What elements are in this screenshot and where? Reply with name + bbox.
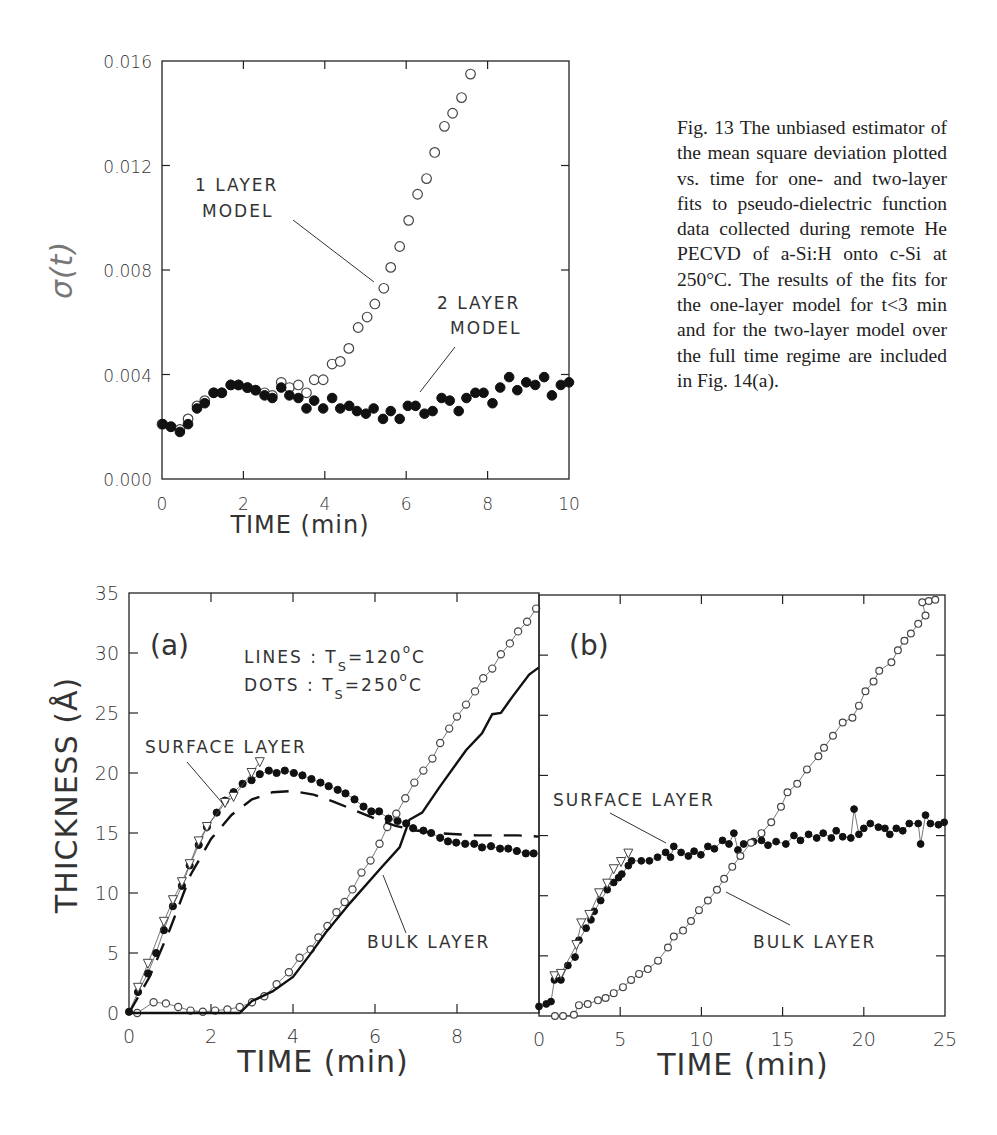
data-point-open <box>552 1013 559 1020</box>
data-point-filled <box>906 820 913 827</box>
data-point-filled <box>445 396 455 406</box>
data-point-open <box>704 897 711 904</box>
data-point-open <box>888 659 895 666</box>
series-0-connector <box>539 809 944 1006</box>
data-point-open <box>395 242 405 252</box>
data-point-filled <box>334 786 341 793</box>
data-point-filled <box>386 406 396 416</box>
data-point-open <box>758 830 765 837</box>
data-point-filled <box>256 771 263 778</box>
data-point-open <box>514 628 521 635</box>
data-point-open <box>376 840 383 847</box>
data-point-filled <box>342 790 349 797</box>
y-tick-label: 15 <box>95 822 119 844</box>
fig14a-leader-surface <box>187 762 224 805</box>
data-point-filled <box>462 393 472 403</box>
data-point-filled <box>791 832 798 839</box>
data-point-open <box>150 999 157 1006</box>
data-point-open <box>737 853 744 860</box>
data-point-filled <box>325 783 332 790</box>
data-point-filled <box>290 769 297 776</box>
data-point-open <box>446 725 453 732</box>
data-point-filled <box>547 391 557 401</box>
data-point-open <box>895 647 902 654</box>
data-point-filled <box>234 380 244 390</box>
data-point-open <box>480 675 487 682</box>
data-point-filled <box>478 844 485 851</box>
legend-dots-text: DOTS : TS=250oC <box>244 670 423 702</box>
fig13-annot-1layer-line1: 1 LAYER <box>195 175 278 195</box>
fig14b-panel-label: (b) <box>569 629 609 662</box>
data-point-open <box>680 927 687 934</box>
data-point-filled <box>740 841 747 848</box>
y-tick-label: 20 <box>95 762 119 784</box>
y-tick-label: 0.012 <box>103 157 152 177</box>
legend-lines-label: LINES <box>244 647 303 667</box>
data-point-open <box>748 839 755 846</box>
data-point-open <box>636 971 643 978</box>
data-point-open <box>506 640 513 647</box>
data-point-filled <box>352 406 362 416</box>
data-point-filled <box>685 853 692 860</box>
data-point-filled <box>276 383 286 393</box>
x-tick-label: 6 <box>401 494 412 514</box>
data-point-open <box>628 977 635 984</box>
data-point-open <box>362 312 372 322</box>
data-point-open <box>830 732 837 739</box>
data-point-filled <box>453 839 460 846</box>
data-point-open <box>440 122 450 132</box>
fig13-plot: 02468100.0000.0040.0080.0120.016 σ(t) TI… <box>44 52 580 539</box>
data-point-filled <box>299 772 306 779</box>
data-point-open <box>437 739 444 746</box>
fig13-leader-2layer <box>420 347 455 392</box>
data-point-filled <box>646 857 653 864</box>
data-point-open <box>341 898 348 905</box>
data-point-filled <box>839 833 846 840</box>
data-point-open <box>402 795 409 802</box>
data-point-triangle <box>229 793 238 802</box>
data-point-open <box>721 875 728 882</box>
data-point-filled <box>773 838 780 845</box>
data-point-filled <box>267 393 277 403</box>
data-point-filled <box>368 808 375 815</box>
fig14b-plot: 0510152025 (b) SURFACE LAYER BULK LAYER <box>533 595 957 1050</box>
data-point-filled <box>805 831 812 838</box>
y-tick-label: 35 <box>95 582 119 604</box>
data-point-open <box>386 263 396 273</box>
data-point-filled <box>704 843 711 850</box>
data-point-open <box>919 599 926 606</box>
x-tick-label: 2 <box>205 1025 217 1047</box>
data-point-open <box>876 667 883 674</box>
data-point-filled <box>265 767 272 774</box>
data-point-filled <box>522 850 529 857</box>
data-point-filled <box>327 393 337 403</box>
data-point-open <box>620 984 627 991</box>
data-point-open <box>714 886 721 893</box>
data-point-filled <box>548 998 555 1005</box>
data-point-open <box>367 857 374 864</box>
data-point-filled <box>411 401 421 411</box>
legend-lines-value: =120 <box>348 647 403 667</box>
data-point-filled <box>318 404 328 414</box>
data-point-filled <box>797 837 804 844</box>
data-point-filled <box>487 843 494 850</box>
legend-dots-value: =250 <box>345 675 400 695</box>
fig13-leader-1layer <box>293 220 374 282</box>
data-point-filled <box>667 854 674 861</box>
data-point-filled <box>351 796 358 803</box>
data-point-open <box>489 665 496 672</box>
data-point-open <box>285 969 292 976</box>
data-point-open <box>404 216 414 226</box>
data-point-open <box>839 719 846 726</box>
data-point-open <box>849 714 856 721</box>
data-point-filled <box>479 388 489 398</box>
data-point-open <box>453 713 460 720</box>
data-point-filled <box>882 825 889 832</box>
data-point-open <box>856 702 863 709</box>
data-point-filled <box>530 380 540 390</box>
data-point-filled <box>217 388 227 398</box>
data-point-filled <box>628 857 635 864</box>
fig14a-plot: 0246805101520253035 (a) LINES : TS=120oC… <box>95 582 540 1047</box>
data-point-filled <box>395 414 405 424</box>
data-point-filled <box>638 857 645 864</box>
